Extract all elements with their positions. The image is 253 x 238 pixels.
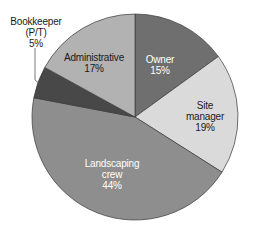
owner-value: 15% — [146, 65, 174, 76]
site-manager-value: 19% — [186, 122, 224, 133]
landscaping-label-2: crew — [85, 169, 140, 180]
bookkeeper-label-1: Bookkeeper — [10, 16, 61, 27]
label-owner: Owner 15% — [146, 54, 174, 76]
administrative-label: Administrative — [64, 52, 124, 63]
bookkeeper-value: 5% — [10, 38, 61, 49]
site-manager-label-1: Site — [186, 100, 224, 111]
landscaping-value: 44% — [85, 180, 140, 191]
label-site-manager: Site manager 19% — [186, 100, 224, 133]
label-administrative: Administrative 17% — [64, 52, 124, 74]
owner-label: Owner — [146, 54, 174, 65]
landscaping-label-1: Landscaping — [85, 158, 140, 169]
administrative-value: 17% — [64, 63, 124, 74]
label-landscaping-crew: Landscaping crew 44% — [85, 158, 140, 191]
label-bookkeeper: Bookkeeper (P/T) 5% — [10, 16, 61, 49]
bookkeeper-label-2: (P/T) — [10, 27, 61, 38]
site-manager-label-2: manager — [186, 111, 224, 122]
